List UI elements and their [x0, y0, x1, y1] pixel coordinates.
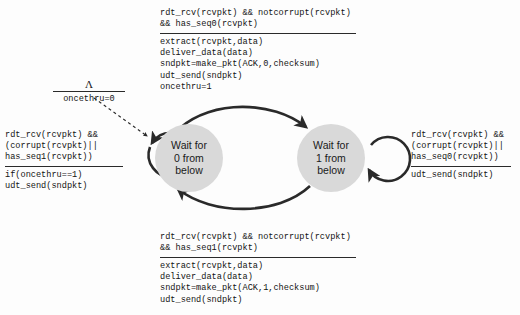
action-line: udt_send(sndpkt): [160, 295, 356, 306]
state-label-line1: Wait for: [313, 139, 349, 152]
state-label-line3: below: [175, 164, 202, 177]
action-line: udt_send(sndpkt): [411, 170, 511, 181]
transition-label-right-loop: rdt_rcv(rcvpkt) && (corrupt(rcvpkt)|| ha…: [411, 130, 511, 181]
state-label-line2: 0 from: [174, 152, 204, 165]
self-loop-right: [369, 137, 410, 181]
action-line: extract(rcvpkt,data): [160, 261, 356, 272]
condition-line: rdt_rcv(rcvpkt) && notcorrupt(rcvpkt): [160, 8, 356, 19]
state-label-line3: below: [317, 164, 344, 177]
condition-line: rdt_rcv(rcvpkt) &&: [5, 130, 123, 141]
condition-line: (corrupt(rcvpkt)||: [411, 141, 511, 152]
condition-line: && has_seq0(rcvpkt): [160, 19, 356, 30]
action-line: udt_send(sndpkt): [5, 181, 123, 192]
label-divider: [5, 166, 123, 167]
action-line: sndpkt=make_pkt(ACK,1,checksum): [160, 283, 356, 294]
label-divider: [160, 33, 356, 34]
action-line: deliver_data(data): [160, 272, 356, 283]
condition-line: has_seq1(rcvpkt)): [5, 152, 123, 163]
action-line: deliver_data(data): [160, 48, 356, 59]
action-line: extract(rcvpkt,data): [160, 37, 356, 48]
action-line: oncethru=1: [160, 82, 356, 93]
action-line: sndpkt=make_pkt(ACK,0,checksum): [160, 59, 356, 70]
action-line: udt_send(sndpkt): [160, 71, 356, 82]
state-wait-for-0-from-below[interactable]: Wait for 0 from below: [155, 124, 223, 192]
condition-line: && has_seq1(rcvpkt): [160, 243, 356, 254]
label-divider: [53, 91, 125, 92]
state-machine-diagram: Wait for 0 from below Wait for 1 from be…: [0, 0, 520, 315]
transition-label-bottom: rdt_rcv(rcvpkt) && notcorrupt(rcvpkt) &&…: [160, 232, 356, 306]
condition-line: rdt_rcv(rcvpkt) &&: [411, 130, 511, 141]
label-divider: [160, 257, 356, 258]
state-label-line1: Wait for: [171, 139, 207, 152]
transition-label-top: rdt_rcv(rcvpkt) && notcorrupt(rcvpkt) &&…: [160, 8, 356, 93]
transition-label-left-loop: rdt_rcv(rcvpkt) && (corrupt(rcvpkt)|| ha…: [5, 130, 123, 193]
lambda-symbol: Λ: [53, 78, 125, 90]
state-wait-for-1-from-below[interactable]: Wait for 1 from below: [297, 124, 365, 192]
condition-line: (corrupt(rcvpkt)||: [5, 141, 123, 152]
condition-line: rdt_rcv(rcvpkt) && notcorrupt(rcvpkt): [160, 232, 356, 243]
label-divider: [411, 166, 511, 167]
initial-action: oncethru=0: [53, 94, 125, 105]
state-label-line2: 1 from: [316, 152, 346, 165]
initial-transition-label: Λ oncethru=0: [53, 78, 125, 105]
condition-line: has_seq0(rcvpkt)): [411, 152, 511, 163]
action-line: if(oncethru==1): [5, 170, 123, 181]
